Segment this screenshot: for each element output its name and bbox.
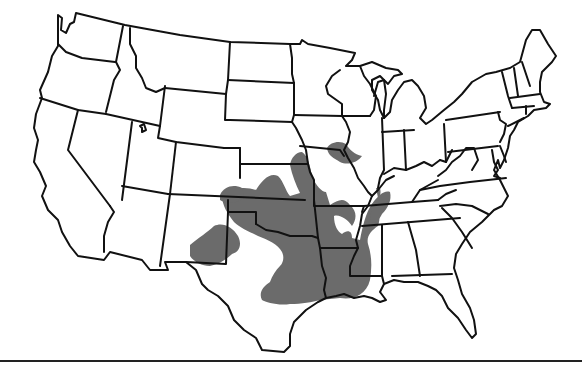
border-az-nm bbox=[160, 194, 170, 266]
border-va-nc-tn bbox=[420, 178, 506, 190]
border-ut-az bbox=[122, 186, 168, 194]
border-tn-nc bbox=[438, 190, 456, 200]
border-al-ga bbox=[408, 222, 420, 276]
us-range-map: Species range map — contiguous United St… bbox=[0, 0, 582, 370]
border-wy-ne-sd bbox=[225, 94, 292, 122]
border-ky-in-oh-river bbox=[384, 160, 440, 174]
border-ky-va bbox=[412, 180, 438, 202]
border-nh-me bbox=[522, 62, 530, 86]
border-oh-pa bbox=[444, 124, 446, 162]
border-sc-ga bbox=[442, 208, 472, 248]
great-salt-lake bbox=[140, 124, 146, 132]
border-il-in bbox=[378, 118, 384, 188]
border-ca-nv bbox=[68, 110, 110, 206]
border-ma-north bbox=[510, 94, 540, 98]
border-in-oh bbox=[404, 130, 406, 170]
border-mi-in-oh bbox=[382, 130, 414, 132]
border-pa-ny bbox=[446, 112, 500, 120]
border-nv-az bbox=[104, 206, 114, 252]
border-wa-id bbox=[116, 26, 123, 62]
border-ny-vt bbox=[502, 72, 512, 108]
border-wi-mi bbox=[360, 66, 376, 116]
border-id-wy bbox=[160, 86, 165, 126]
border-mt-wy-dakotas bbox=[165, 88, 226, 94]
border-mt-nd bbox=[226, 42, 230, 94]
border-id-mt bbox=[130, 28, 165, 92]
border-or-ca-nv bbox=[40, 98, 106, 114]
bottom-divider bbox=[0, 360, 582, 362]
border-ms-al bbox=[382, 225, 384, 284]
border-wy-co bbox=[158, 126, 224, 148]
border-vt-nh bbox=[514, 68, 518, 96]
border-or-id bbox=[106, 62, 120, 112]
border-fl-ga-al bbox=[392, 274, 452, 276]
border-ct-ri-ma bbox=[512, 106, 534, 108]
border-ny-nj bbox=[498, 112, 506, 142]
border-sd-mn-ia bbox=[292, 83, 308, 164]
border-mn-wi bbox=[326, 70, 342, 116]
border-nd-sd bbox=[228, 80, 294, 83]
border-id-south bbox=[106, 114, 160, 126]
range-new-mexico-lobe bbox=[190, 224, 240, 266]
border-wa-or bbox=[58, 44, 115, 62]
border-mn-ia bbox=[294, 115, 342, 116]
border-nd-mn bbox=[290, 44, 294, 83]
border-co-ut bbox=[170, 142, 176, 194]
